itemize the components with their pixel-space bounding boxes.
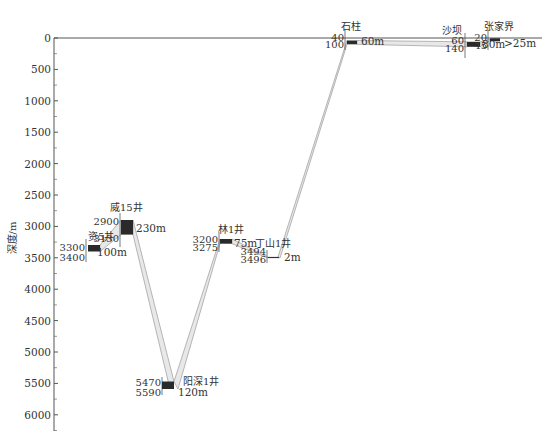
tick-label: 1000	[24, 95, 51, 107]
tick-label: 3500	[24, 252, 51, 264]
bottom-depth: 5590	[136, 387, 161, 398]
tick-label: 2500	[24, 189, 51, 201]
bottom-depth: 3275	[193, 242, 218, 253]
bottom-depth: 100	[325, 39, 344, 50]
tick-label: 0	[44, 32, 51, 44]
top-depth: 2900	[94, 216, 119, 227]
bottom-depth: 3130	[94, 233, 119, 244]
well-name: 威15井	[110, 201, 143, 213]
thickness-label: 230m	[136, 222, 166, 234]
tick-label: 1500	[24, 126, 51, 138]
band-wei15-yangshen1	[133, 220, 174, 389]
well-wei15: 威15井 2900 3130 230m	[94, 201, 166, 247]
thickness-label: 2m	[284, 251, 301, 263]
bottom-depth: 45	[474, 40, 487, 51]
band-yangshen1-lin1	[174, 239, 220, 389]
tick-label: 6000	[24, 409, 51, 421]
thickness-label: 100m	[97, 246, 127, 258]
tick-label: 5500	[24, 377, 51, 389]
well-name: 石柱	[341, 20, 361, 32]
thickness-label: 120m	[178, 386, 208, 398]
well-zhangjiajie: 张家界 20 45 >25m	[474, 20, 536, 51]
tick-label: 5000	[24, 346, 51, 358]
tick-label: 4500	[24, 315, 51, 327]
bottom-depth: 3400	[60, 252, 85, 263]
y-axis-tick-labels: 0 500 1000 1500 2000 2500 3000 3500 4000…	[24, 32, 51, 421]
bottom-depth: 140	[445, 43, 464, 54]
layer-block	[490, 38, 500, 41]
layer-block	[220, 239, 232, 244]
tick-label: 2000	[24, 158, 51, 170]
well-name: 林1井	[218, 223, 244, 235]
tick-label: 3000	[24, 220, 51, 232]
well-name: 张家界	[484, 20, 514, 32]
layer-block	[121, 220, 133, 235]
well-correlation-diagram: 0 500 1000 1500 2000 2500 3000 3500 4000…	[0, 0, 542, 446]
thickness-label: >25m	[504, 37, 536, 49]
thickness-label: 60m	[361, 35, 384, 47]
tick-label: 500	[31, 63, 51, 75]
correlation-bands	[100, 39, 490, 389]
tick-label: 4000	[24, 283, 51, 295]
layer-block	[347, 41, 357, 45]
bottom-depth: 3496	[241, 254, 266, 265]
band-dingshan1-shizhu	[278, 41, 347, 259]
y-axis-title: 深度/m	[6, 221, 18, 254]
layer-block	[162, 382, 174, 390]
well-shizhu: 石柱 40 100 60m	[325, 20, 384, 50]
